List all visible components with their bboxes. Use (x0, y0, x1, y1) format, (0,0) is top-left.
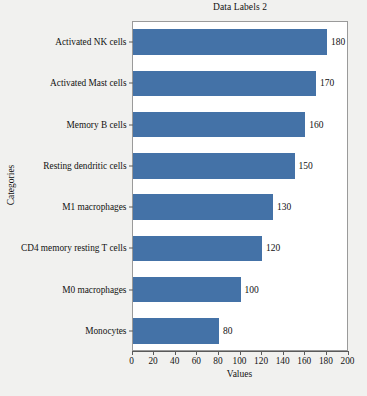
bar-row: 120 (133, 236, 347, 262)
x-axis-tick-mark (261, 351, 262, 355)
x-axis-tick-mark (175, 351, 176, 355)
bar[interactable] (133, 277, 241, 303)
chart-figure: Data Labels 2 180Activated NK cells170Ac… (0, 0, 367, 396)
bar-row: 160 (133, 112, 347, 138)
bar-row: 150 (133, 153, 347, 179)
bar-value-label: 130 (273, 202, 291, 212)
x-axis-tick-mark (196, 351, 197, 355)
x-axis-tick-label: 180 (319, 356, 333, 366)
x-axis-tick-label: 20 (148, 356, 157, 366)
x-axis-tick-mark (283, 351, 284, 355)
x-axis-tick-mark (153, 351, 154, 355)
x-axis-tick-label: 120 (254, 356, 268, 366)
bar-row: 80 (133, 318, 347, 344)
x-axis-tick-mark (218, 351, 219, 355)
y-axis-tick-label: M0 macrophages (5, 285, 133, 295)
bar-value-label: 120 (262, 243, 280, 253)
bar-value-label: 100 (241, 285, 259, 295)
x-axis-tick-mark (304, 351, 305, 355)
x-axis-tick-mark (348, 351, 349, 355)
bar[interactable] (133, 153, 295, 179)
plot-inner: 180Activated NK cells170Activated Mast c… (133, 22, 347, 350)
bar[interactable] (133, 112, 306, 138)
x-axis-label: Values (132, 369, 348, 379)
plot-area: 180Activated NK cells170Activated Mast c… (132, 21, 348, 351)
bar[interactable] (133, 71, 317, 97)
bar-row: 100 (133, 277, 347, 303)
bar-value-label: 150 (295, 161, 313, 171)
y-axis-tick-label: M1 macrophages (5, 202, 133, 212)
y-axis-tick-label: Activated Mast cells (5, 78, 133, 88)
bar[interactable] (133, 194, 273, 220)
chart-title: Data Labels 2 (132, 2, 348, 12)
bar-value-label: 160 (305, 120, 323, 130)
y-axis-tick-label: Resting dendritic cells (5, 161, 133, 171)
y-axis-label: Categories (6, 145, 16, 225)
x-axis-tick-mark (132, 351, 133, 355)
bar[interactable] (133, 29, 327, 55)
x-axis-tick-label: 60 (192, 356, 201, 366)
bar-row: 170 (133, 71, 347, 97)
y-axis-tick-label: Monocytes (5, 326, 133, 336)
bar-value-label: 80 (219, 326, 233, 336)
y-axis-tick-label: Activated NK cells (5, 37, 133, 47)
bar-row: 180 (133, 29, 347, 55)
x-axis-tick-label: 100 (233, 356, 247, 366)
x-axis-tick-label: 80 (213, 356, 222, 366)
x-axis-tick-label: 40 (170, 356, 179, 366)
x-axis-tick-label: 0 (129, 356, 134, 366)
bar[interactable] (133, 318, 219, 344)
bar-value-label: 180 (327, 37, 345, 47)
bar-value-label: 170 (316, 78, 334, 88)
x-axis-tick-mark (326, 351, 327, 355)
x-axis-tick-label: 160 (297, 356, 311, 366)
y-axis-tick-label: Memory B cells (5, 120, 133, 130)
y-axis-tick-label: CD4 memory resting T cells (5, 243, 133, 253)
x-axis-tick-label: 140 (276, 356, 290, 366)
x-axis-tick-mark (240, 351, 241, 355)
bar[interactable] (133, 236, 263, 262)
x-axis-tick-label: 200 (341, 356, 355, 366)
bar-row: 130 (133, 194, 347, 220)
